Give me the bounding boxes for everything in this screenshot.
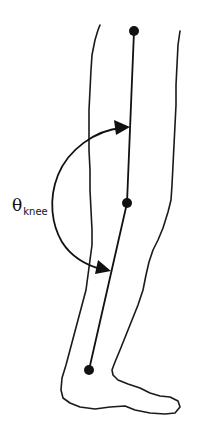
leg-outline-back bbox=[61, 25, 180, 414]
hip-marker-dot bbox=[129, 26, 139, 36]
knee-subscript: knee bbox=[23, 206, 47, 217]
upper-arrowhead-icon bbox=[114, 120, 130, 135]
ankle-marker-dot bbox=[84, 365, 94, 375]
knee-marker-dot bbox=[122, 198, 132, 208]
knee-angle-label: θknee bbox=[12, 197, 48, 214]
thigh-segment-line bbox=[127, 31, 134, 203]
theta-symbol: θ bbox=[12, 195, 22, 215]
knee-angle-arc bbox=[52, 128, 122, 270]
lower-arrowhead-icon bbox=[95, 260, 111, 274]
